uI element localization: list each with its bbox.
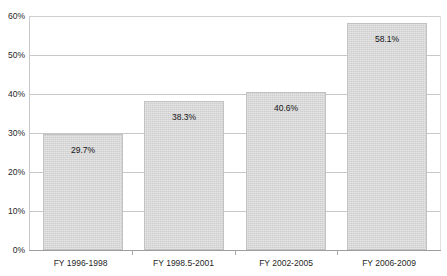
y-tick-label-10: 10% xyxy=(8,207,25,216)
x-axis-tick-1 xyxy=(132,250,133,255)
y-tick-label-0: 0% xyxy=(13,246,25,255)
x-axis-label-fy-1996-1998: FY 1996-1998 xyxy=(29,258,132,268)
bar-fy-1998-5-2001[interactable]: 38.3% xyxy=(144,101,224,250)
bar-fy-1996-1998[interactable]: 29.7% xyxy=(43,134,123,250)
x-axis-tick-3 xyxy=(337,250,338,255)
x-axis-label-fy-1998-5-2001: FY 1998.5-2001 xyxy=(132,258,235,268)
plot-area: 29.7% 38.3% 40.6% 58.1% xyxy=(29,16,441,250)
y-tick-label-20: 20% xyxy=(8,168,25,177)
x-axis-tick-2 xyxy=(235,250,236,255)
x-axis-label-fy-2002-2005: FY 2002-2005 xyxy=(235,258,337,268)
y-axis: 60% 50% 40% 30% 20% 10% 0% xyxy=(0,0,29,276)
bar-value-label: 38.3% xyxy=(145,112,223,122)
chart-title-remnant xyxy=(0,0,447,9)
y-tick-label-50: 50% xyxy=(8,51,25,60)
bar-value-label: 58.1% xyxy=(348,34,426,44)
y-tick-label-40: 40% xyxy=(8,90,25,99)
y-tick-label-30: 30% xyxy=(8,129,25,138)
bar-value-label: 29.7% xyxy=(44,145,122,155)
bar-fy-2006-2009[interactable]: 58.1% xyxy=(347,23,427,250)
bar-fy-2002-2005[interactable]: 40.6% xyxy=(246,92,326,250)
bar-value-label: 40.6% xyxy=(247,103,325,113)
y-tick-label-60: 60% xyxy=(8,12,25,21)
bar-chart: 60% 50% 40% 30% 20% 10% 0% 29.7% 38.3% 4… xyxy=(0,0,447,276)
x-axis-label-fy-2006-2009: FY 2006-2009 xyxy=(337,258,441,268)
